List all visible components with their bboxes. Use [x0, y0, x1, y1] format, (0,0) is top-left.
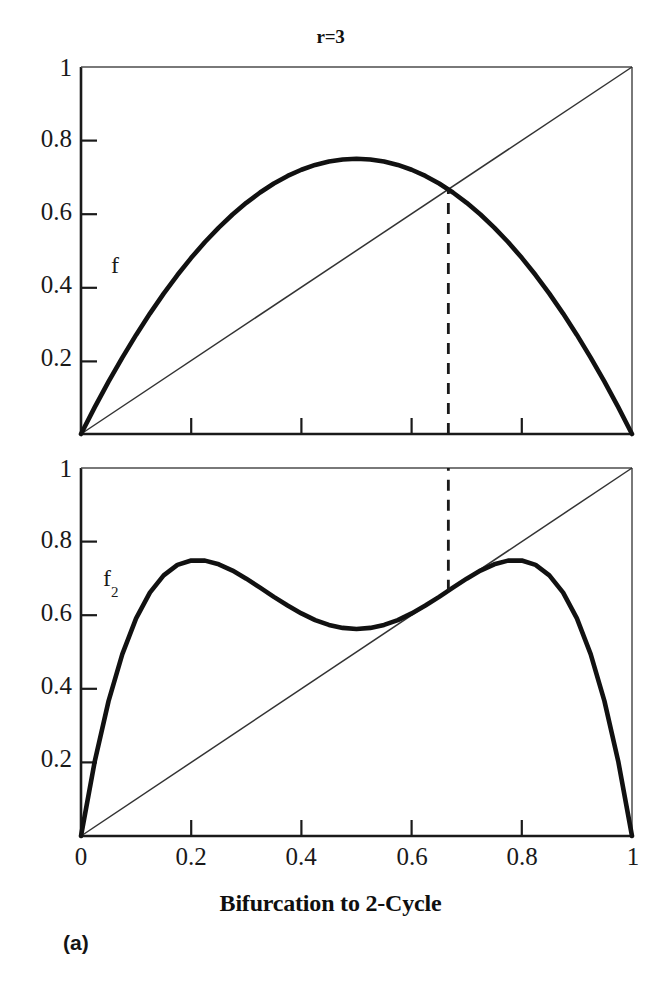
top-plot-yticks — [81, 141, 97, 362]
curve-f2-path — [81, 560, 632, 836]
plot-vector-layer — [0, 0, 661, 985]
bottom-plot-yticks — [81, 542, 97, 763]
curve-f-path — [81, 159, 632, 434]
bottom-plot-group — [81, 468, 632, 836]
top-plot-group — [81, 67, 632, 434]
top-plot-diagonal — [81, 67, 632, 434]
bottom-plot-diagonal — [81, 468, 632, 836]
figure-bifurcation-2-cycle: r=3 1 0.8 0.6 0.4 0.2 f 1 0.8 0.6 0.4 0.… — [0, 0, 661, 985]
top-plot-xticks — [191, 418, 522, 434]
bottom-plot-xticks — [191, 820, 522, 836]
